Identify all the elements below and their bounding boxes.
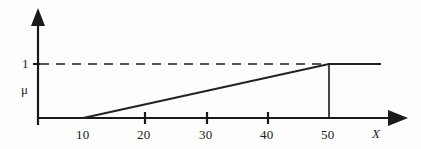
y-axis-label: μ (21, 83, 28, 96)
y-level-one-label: 1 (22, 57, 29, 70)
x-tick-label-20: 20 (137, 128, 151, 141)
x-tick-label-40: 40 (260, 128, 274, 141)
y-axis-arrow-icon (31, 8, 45, 26)
x-tick-label-30: 30 (199, 128, 213, 141)
x-axis-arrow-icon (388, 110, 408, 126)
x-axis-label: X (372, 127, 380, 140)
fuzzy-membership-chart: 1 μ 10 20 30 40 50 X (0, 0, 421, 149)
x-tick-label-10: 10 (76, 128, 90, 141)
x-tick-label-50: 50 (321, 128, 335, 141)
membership-curve (83, 64, 381, 118)
